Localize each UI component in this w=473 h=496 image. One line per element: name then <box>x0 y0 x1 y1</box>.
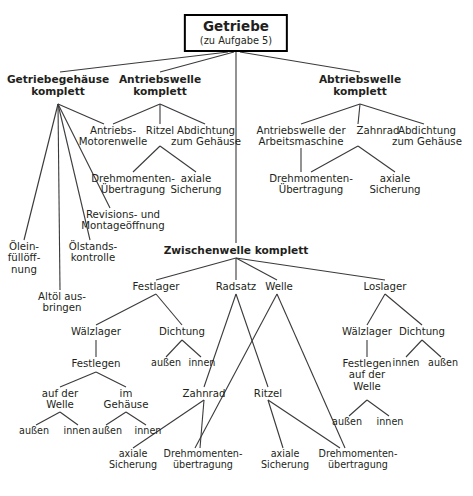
edge-dichtung-r-aussen <box>422 340 441 357</box>
node-dichtung-loslager[interactable]: Dichtung <box>392 326 452 337</box>
node-antriebswelle-der-arbeitsmaschine[interactable]: Antriebswelle der Arbeitsmaschine <box>245 125 357 148</box>
edge-abw-abdichtung <box>360 104 424 124</box>
node-antriebswelle-komplett[interactable]: Antriebswelle komplett <box>105 74 215 98</box>
edge-festlegen-aufderwelle <box>60 372 96 387</box>
node-altoel-ausbringen[interactable]: Altöl aus- bringen <box>27 291 97 314</box>
edge-ritzel-c-axiale <box>268 400 283 448</box>
edge-radsatz-ritzel <box>236 294 268 387</box>
edge-ig-aussen <box>106 412 126 425</box>
root-title: Getriebe <box>200 19 272 35</box>
edge-festlegen-r-aussen <box>349 400 367 416</box>
node-waelzlager-festlager[interactable]: Wälzlager <box>63 326 129 337</box>
edge-ritzel-axiale-a <box>160 146 196 172</box>
node-festlegen-loslager-aussen[interactable]: außen <box>327 417 367 428</box>
edge-loslager-dichtung <box>385 294 422 325</box>
edge-root-getriebegehaeuse <box>60 52 228 72</box>
node-axiale-sicherung-antrieb[interactable]: axiale Sicherung <box>163 173 229 196</box>
node-axiale-sicherung-abtrieb[interactable]: axiale Sicherung <box>362 173 428 196</box>
node-festlegen-festlager[interactable]: Festlegen <box>64 358 128 369</box>
edge-root-antriebswelle <box>160 52 234 72</box>
node-drehmomenten-uebertragung-abtrieb[interactable]: Drehmomenten- Übertragung <box>260 173 362 196</box>
node-abtriebswelle-komplett[interactable]: Abtriebswelle komplett <box>305 74 415 98</box>
edge-ig-innen <box>126 412 146 425</box>
edge-gg-oeleinfuell <box>24 104 58 240</box>
node-auf-der-welle-aussen[interactable]: außen <box>14 426 54 437</box>
node-loslager[interactable]: Loslager <box>356 281 414 292</box>
node-im-gehaeuse-innen[interactable]: innen <box>129 426 167 437</box>
node-ritzel-radsatz[interactable]: Ritzel <box>246 388 290 399</box>
node-drehmomenten-uebertragung-zahnrad[interactable]: Drehmomenten- übertragung <box>153 449 253 470</box>
edge-dichtung-l-innen <box>182 340 201 357</box>
edge-root-abtriebswelle <box>240 52 360 72</box>
diagram-canvas: Getriebe (zu Aufgabe 5) Getriebegehäuse … <box>0 0 473 496</box>
node-dichtung-festlager-innen[interactable]: innen <box>183 358 221 369</box>
node-im-gehaeuse-aussen[interactable]: außen <box>87 426 127 437</box>
edge-zw-festlager <box>156 258 236 280</box>
node-oeleinfuelloeffnung[interactable]: Ölein- füllöff- nung <box>0 241 48 275</box>
edge-zw-loslager <box>236 258 385 280</box>
edge-dichtung-l-aussen <box>166 340 182 357</box>
edge-ritzel-drehmoment-a <box>133 146 160 172</box>
root-subtitle: (zu Aufgabe 5) <box>200 35 272 46</box>
node-waelzlager-loslager[interactable]: Wälzlager <box>334 326 400 337</box>
edge-abw-arbeitsmaschine <box>301 104 360 124</box>
edge-adw-aussen <box>36 412 60 425</box>
edge-festlegen-imgehaeuse <box>96 372 126 387</box>
edge-festlager-dichtung <box>156 294 182 325</box>
edge-radsatz-zahnrad <box>204 294 236 387</box>
node-dichtung-loslager-aussen[interactable]: außen <box>423 358 463 369</box>
root-node-getriebe[interactable]: Getriebe (zu Aufgabe 5) <box>184 14 288 52</box>
edge-zahnrad-drehmoment-b <box>311 146 358 172</box>
node-auf-der-welle[interactable]: auf der Welle <box>34 388 86 411</box>
node-abdichtung-zum-gehaeuse-abtrieb[interactable]: Abdichtung zum Gehäuse <box>385 125 469 148</box>
node-welle[interactable]: Welle <box>257 281 301 292</box>
edge-dichtung-r-innen <box>406 340 422 357</box>
edge-aw-abdichtung <box>160 104 205 124</box>
edge-festlegen-r-innen <box>367 400 389 416</box>
node-zwischenwelle-komplett[interactable]: Zwischenwelle komplett <box>151 245 321 257</box>
edge-welle-drehmoment-c1 <box>195 294 277 448</box>
node-revisions-und-montageoeffnung[interactable]: Revisions- und Montageöffnung <box>70 209 176 232</box>
node-dichtung-festlager[interactable]: Dichtung <box>152 326 212 337</box>
edge-adw-innen <box>60 412 78 425</box>
node-oelstandskontrolle[interactable]: Ölstands- kontrolle <box>59 241 127 264</box>
node-zahnrad-radsatz[interactable]: Zahnrad <box>176 388 232 399</box>
edge-abw-zahnrad <box>358 104 360 124</box>
edge-gg-motorenwelle <box>58 104 104 124</box>
edge-loslager-waelzlager <box>367 294 385 325</box>
edge-festlager-waelzlager <box>96 294 156 325</box>
edge-aw-motorenwelle <box>113 104 160 124</box>
edge-zahnrad-axiale-b <box>358 146 395 172</box>
node-abdichtung-zum-gehaeuse-antrieb[interactable]: Abdichtung zum Gehäuse <box>166 125 246 148</box>
edge-zw-welle <box>236 258 277 280</box>
node-festlegen-auf-der-welle-loslager[interactable]: Festlegen auf der Welle <box>334 358 400 392</box>
node-radsatz[interactable]: Radsatz <box>208 281 264 292</box>
edge-zahnrad-c-drehmoment <box>200 400 204 448</box>
node-festlager[interactable]: Festlager <box>125 281 187 292</box>
node-dichtung-festlager-aussen[interactable]: außen <box>146 358 186 369</box>
node-festlegen-loslager-innen[interactable]: innen <box>371 417 409 428</box>
node-drehmomenten-uebertragung-ritzel[interactable]: Drehmomenten- übertragung <box>308 449 408 470</box>
node-im-gehaeuse[interactable]: im Gehäuse <box>100 388 152 411</box>
